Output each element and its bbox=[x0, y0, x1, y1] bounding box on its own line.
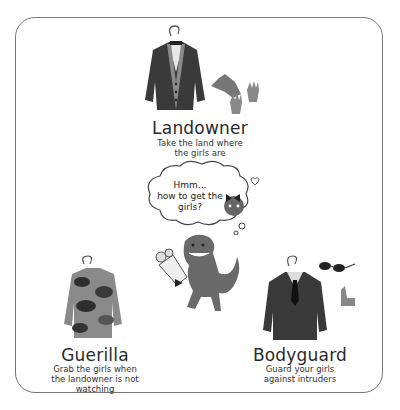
role-description-guerilla: Grab the girls whenthe landowner is notw… bbox=[25, 364, 165, 394]
earpiece-icon bbox=[341, 286, 355, 306]
role-title-landowner: Landowner bbox=[100, 118, 300, 138]
suit-jacket-icon bbox=[145, 41, 205, 110]
landowner-illustration bbox=[135, 22, 265, 117]
bouquet-icon bbox=[156, 249, 187, 287]
suit-with-tie-icon bbox=[263, 272, 327, 340]
hanger-icon bbox=[170, 26, 179, 36]
heart-icon bbox=[251, 178, 259, 186]
guerilla-illustration bbox=[50, 252, 140, 347]
role-description-landowner: Take the land wherethe girls are bbox=[100, 138, 300, 158]
sunglasses-icon bbox=[319, 262, 355, 272]
role-title-guerilla: Guerilla bbox=[25, 345, 165, 365]
bodyguard-illustration bbox=[255, 252, 375, 347]
dinosaur-illustration bbox=[145, 225, 255, 320]
role-title-bodyguard: Bodyguard bbox=[235, 345, 365, 365]
role-description-bodyguard: Guard your girlsagainst intruders bbox=[235, 364, 365, 384]
camouflage-sweater-icon bbox=[64, 268, 122, 338]
thought-text: Hmm...how to get thegirls? bbox=[150, 180, 230, 213]
top-hat-icon bbox=[211, 74, 241, 98]
